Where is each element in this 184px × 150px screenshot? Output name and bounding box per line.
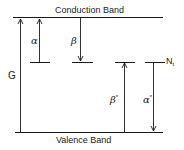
alpha-label: α — [31, 36, 38, 46]
trap-density-subscript: t — [173, 61, 175, 67]
alpha-star-label: α* — [143, 94, 152, 105]
beta-star-label: β* — [110, 94, 118, 105]
beta-star-arrow-icon — [122, 63, 127, 132]
beta-arrow-icon — [78, 18, 83, 61]
band-diagram — [0, 0, 184, 150]
conduction-band-label: Conduction Band — [55, 6, 124, 15]
alpha-star-superscript: * — [150, 94, 152, 100]
trap-density-label: Nt — [166, 57, 174, 67]
valence-band-label: Valence Band — [56, 136, 111, 145]
generation-label: G — [8, 71, 16, 81]
alpha-star-symbol: α — [143, 94, 150, 105]
beta-star-superscript: * — [116, 94, 118, 100]
beta-label: β — [71, 36, 77, 46]
generation-arrow-icon — [18, 19, 23, 132]
